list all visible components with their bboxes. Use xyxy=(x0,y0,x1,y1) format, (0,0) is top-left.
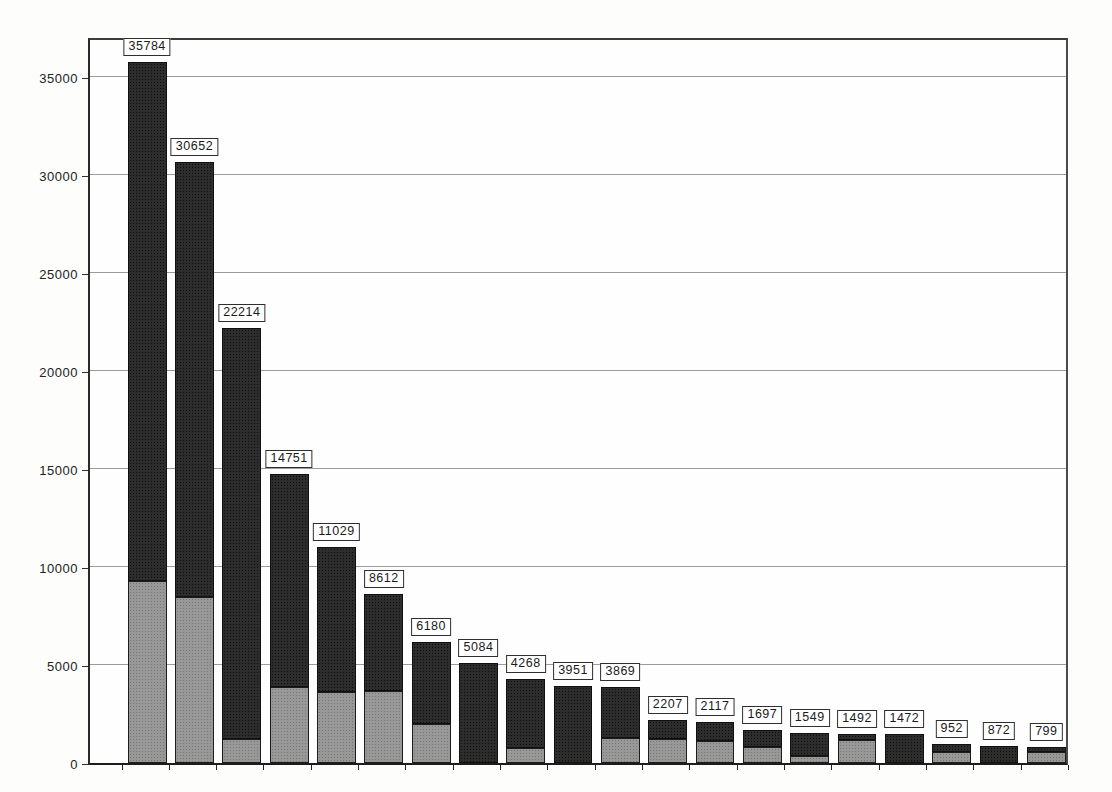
bar-11-value-label: 3869 xyxy=(601,663,641,681)
x-axis-tick xyxy=(216,765,217,770)
x-axis-tick xyxy=(453,765,454,770)
bar-3-value-label: 22214 xyxy=(218,304,265,322)
bar-6-lower-segment xyxy=(364,691,403,763)
bar-18-lower-segment xyxy=(932,752,971,763)
x-axis-tick xyxy=(405,765,406,770)
bar-9-upper-segment xyxy=(506,679,545,748)
x-axis-tick xyxy=(263,765,264,770)
bar-2-upper-segment xyxy=(175,162,214,597)
bar-7-lower-segment xyxy=(412,724,451,763)
y-axis-label-10000: 10000 xyxy=(0,561,78,576)
gridline-25000 xyxy=(90,272,1066,273)
bar-4-upper-segment xyxy=(270,474,309,687)
bar-12-lower-segment xyxy=(648,739,687,763)
gridline-35000 xyxy=(90,76,1066,77)
bar-3-lower-segment xyxy=(222,739,261,763)
bar-18-upper-segment xyxy=(932,744,971,752)
x-axis-tick xyxy=(642,765,643,770)
bar-4-value-label: 14751 xyxy=(265,450,312,468)
bar-9-value-label: 4268 xyxy=(506,655,546,673)
bar-12-value-label: 2207 xyxy=(648,696,688,714)
bar-14-upper-segment xyxy=(743,730,782,747)
x-axis-tick xyxy=(1021,765,1022,770)
bar-11-upper-segment xyxy=(601,687,640,738)
x-axis-tick xyxy=(547,765,548,770)
x-axis-tick xyxy=(595,765,596,770)
x-axis-tick xyxy=(831,765,832,770)
y-axis-label-20000: 20000 xyxy=(0,365,78,380)
bar-7-upper-segment xyxy=(412,642,451,724)
bar-4-lower-segment xyxy=(270,687,309,763)
bar-8-upper-segment xyxy=(459,663,498,763)
bar-14-value-label: 1697 xyxy=(742,706,782,724)
bar-15-lower-segment xyxy=(790,756,829,763)
x-axis-tick xyxy=(689,765,690,770)
x-axis-tick xyxy=(737,765,738,770)
bar-16-value-label: 1492 xyxy=(837,710,877,728)
bar-18-value-label: 952 xyxy=(936,720,968,738)
y-axis-label-35000: 35000 xyxy=(0,71,78,86)
bar-7-value-label: 6180 xyxy=(411,618,451,636)
bar-13-value-label: 2117 xyxy=(696,698,735,716)
bar-19-value-label: 872 xyxy=(983,722,1015,740)
bar-5-upper-segment xyxy=(317,547,356,692)
x-axis-tick xyxy=(1068,765,1069,770)
stacked-bar-chart: 05000100001500020000250003000035000 3578… xyxy=(0,0,1112,792)
bar-10-upper-segment xyxy=(554,686,593,763)
y-axis-label-15000: 15000 xyxy=(0,463,78,478)
bar-5-lower-segment xyxy=(317,692,356,763)
bar-3-upper-segment xyxy=(222,328,261,739)
y-axis-label-25000: 25000 xyxy=(0,267,78,282)
bar-14-lower-segment xyxy=(743,747,782,763)
x-axis-tick xyxy=(169,765,170,770)
bar-8-value-label: 5084 xyxy=(459,639,499,657)
y-axis-label-5000: 5000 xyxy=(0,659,78,674)
bar-2-value-label: 30652 xyxy=(171,138,218,156)
bar-17-value-label: 1472 xyxy=(884,710,924,728)
bar-1-lower-segment xyxy=(128,581,167,763)
bar-16-lower-segment xyxy=(838,740,877,763)
gridline-30000 xyxy=(90,174,1066,175)
bar-15-upper-segment xyxy=(790,733,829,756)
bar-15-value-label: 1549 xyxy=(790,709,830,727)
bar-11-lower-segment xyxy=(601,738,640,763)
x-axis-tick xyxy=(122,765,123,770)
y-axis-label-30000: 30000 xyxy=(0,169,78,184)
bar-9-lower-segment xyxy=(506,748,545,763)
bar-20-lower-segment xyxy=(1027,752,1066,763)
x-axis-tick xyxy=(926,765,927,770)
bar-1-value-label: 35784 xyxy=(124,38,171,56)
x-axis-tick xyxy=(311,765,312,770)
bar-6-upper-segment xyxy=(364,594,403,690)
bar-17-upper-segment xyxy=(885,734,924,763)
x-axis-tick xyxy=(500,765,501,770)
x-axis-tick xyxy=(973,765,974,770)
bar-1-upper-segment xyxy=(128,62,167,581)
bar-10-value-label: 3951 xyxy=(553,662,593,680)
bar-5-value-label: 11029 xyxy=(313,523,359,541)
bar-19-upper-segment xyxy=(980,746,1019,763)
bar-20-value-label: 799 xyxy=(1030,723,1062,741)
bar-13-upper-segment xyxy=(696,722,735,741)
x-axis-tick xyxy=(879,765,880,770)
bar-13-lower-segment xyxy=(696,741,735,763)
plot-area: 3578430652222141475111029861261805084426… xyxy=(88,38,1068,765)
x-axis-tick xyxy=(784,765,785,770)
bar-6-value-label: 8612 xyxy=(364,570,404,588)
bar-2-lower-segment xyxy=(175,597,214,763)
y-axis-label-0: 0 xyxy=(0,757,78,772)
x-axis-tick xyxy=(358,765,359,770)
bar-12-upper-segment xyxy=(648,720,687,739)
